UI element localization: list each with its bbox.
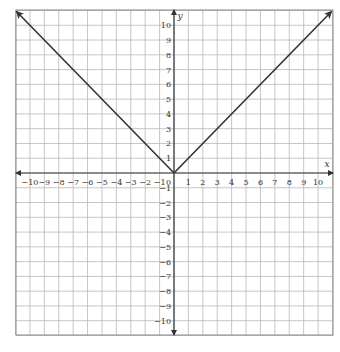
x-tick-label: 7: [272, 178, 277, 187]
y-tick-label: −2: [159, 199, 171, 208]
x-tick-label: 10: [313, 178, 323, 187]
y-axis-label: y: [176, 11, 183, 21]
x-tick-label: −4: [110, 178, 122, 187]
x-tick-label: −9: [38, 178, 50, 187]
x-tick-label: −10: [21, 178, 38, 187]
y-tick-label: 3: [166, 125, 171, 134]
origin-label: 0: [166, 178, 171, 187]
x-tick-label: 9: [301, 178, 306, 187]
y-tick-label: −6: [159, 258, 171, 267]
y-tick-label: −4: [159, 228, 171, 237]
y-tick-label: 5: [166, 95, 171, 104]
x-tick-label: −3: [125, 178, 137, 187]
x-tick-label: −2: [139, 178, 151, 187]
y-tick-label: 1: [166, 154, 171, 163]
y-tick-label: 2: [166, 139, 171, 148]
y-tick-label: −8: [159, 287, 171, 296]
x-tick-label: −8: [53, 178, 65, 187]
x-tick-label: 1: [186, 178, 191, 187]
y-tick-label: −3: [159, 213, 171, 222]
x-axis-label: x: [324, 159, 329, 169]
x-tick-label: 2: [200, 178, 205, 187]
x-tick-label: 5: [243, 178, 248, 187]
function-line-left: [17, 12, 175, 174]
x-tick-label: 8: [287, 178, 292, 187]
y-tick-label: −7: [159, 272, 171, 281]
y-tick-label: 7: [166, 66, 171, 75]
x-tick-label: −5: [96, 178, 108, 187]
y-tick-label: 4: [166, 110, 171, 119]
y-tick-label: 6: [166, 80, 171, 89]
x-tick-label: 4: [229, 178, 234, 187]
x-tick-label: 6: [258, 178, 263, 187]
y-tick-label: 8: [166, 51, 171, 60]
coordinate-plane: −10−9−8−7−6−5−4−3−2−112345678910−10−9−8−…: [0, 0, 340, 352]
y-tick-label: −10: [154, 317, 171, 326]
y-tick-label: −9: [159, 302, 171, 311]
y-tick-label: 10: [161, 21, 171, 30]
x-tick-label: −7: [67, 178, 79, 187]
x-tick-label: 3: [215, 178, 220, 187]
y-tick-label: 9: [166, 36, 171, 45]
y-tick-label: −5: [159, 243, 171, 252]
graph-svg: −10−9−8−7−6−5−4−3−2−112345678910−10−9−8−…: [0, 0, 340, 352]
x-tick-label: −6: [82, 178, 94, 187]
function-line-right: [174, 12, 332, 174]
